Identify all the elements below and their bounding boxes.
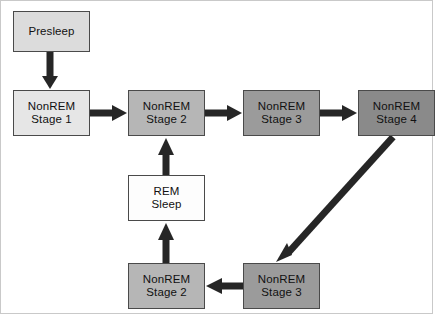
node-nonrem-stage-3-top-line2: Stage 3 <box>261 113 301 127</box>
node-nonrem-stage-2-bottom[interactable]: NonREM Stage 2 <box>128 263 205 309</box>
node-nonrem-stage-3-top[interactable]: NonREM Stage 3 <box>243 90 320 136</box>
sleep-cycle-diagram: Presleep NonREM Stage 1 NonREM Stage 2 N… <box>0 0 435 316</box>
node-presleep[interactable]: Presleep <box>13 11 90 52</box>
node-nonrem-stage-2-bottom-line2: Stage 2 <box>146 286 186 300</box>
node-nonrem-stage-1[interactable]: NonREM Stage 1 <box>13 90 90 136</box>
arrow-stage3-bottom-to-stage2-bottom <box>206 278 244 294</box>
arrow-stage2-to-stage3 <box>205 105 242 121</box>
node-nonrem-stage-2-top-line2: Stage 2 <box>146 113 186 127</box>
node-rem-sleep-line2: Sleep <box>152 198 182 212</box>
node-nonrem-stage-4-line1: NonREM <box>373 100 420 114</box>
arrow-stage3-to-stage4 <box>320 105 357 121</box>
node-nonrem-stage-4-line2: Stage 4 <box>376 113 416 127</box>
arrow-rem-to-stage2-top <box>158 138 174 176</box>
node-nonrem-stage-3-top-line1: NonREM <box>258 100 305 114</box>
arrow-presleep-to-stage1 <box>42 52 58 89</box>
arrow-stage2-bottom-to-rem <box>158 223 174 263</box>
arrow-stage1-to-stage2 <box>90 105 127 121</box>
node-nonrem-stage-3-bottom-line1: NonREM <box>258 273 305 287</box>
node-presleep-line1: Presleep <box>28 25 74 39</box>
node-nonrem-stage-2-top[interactable]: NonREM Stage 2 <box>128 90 205 136</box>
arrow-stage4-to-stage3-bottom <box>276 137 393 262</box>
node-nonrem-stage-2-bottom-line1: NonREM <box>143 273 190 287</box>
node-nonrem-stage-4[interactable]: NonREM Stage 4 <box>358 90 435 136</box>
node-rem-sleep-line1: REM <box>154 185 180 199</box>
node-nonrem-stage-3-bottom[interactable]: NonREM Stage 3 <box>243 263 320 309</box>
node-nonrem-stage-1-line2: Stage 1 <box>31 113 71 127</box>
node-nonrem-stage-3-bottom-line2: Stage 3 <box>261 286 301 300</box>
node-nonrem-stage-1-line1: NonREM <box>28 100 75 114</box>
node-rem-sleep[interactable]: REM Sleep <box>128 175 205 221</box>
node-nonrem-stage-2-top-line1: NonREM <box>143 100 190 114</box>
